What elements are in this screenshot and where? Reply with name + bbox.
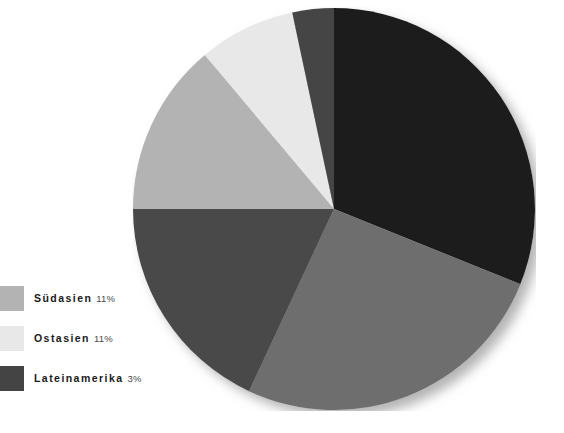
legend-color-swatch: [0, 286, 24, 311]
legend-text: Ostasien11%: [34, 329, 113, 345]
chart-legend: Südasien11%Ostasien11%Lateinamerika3%: [0, 282, 185, 402]
legend-value: 3%: [127, 373, 141, 384]
legend-text: Lateinamerika3%: [34, 369, 142, 385]
legend-label: Südasien: [34, 292, 92, 304]
legend-item[interactable]: Ostasien11%: [0, 322, 185, 362]
legend-text: Südasien11%: [34, 289, 115, 305]
pie-slice-group: [133, 8, 535, 410]
legend-value: 11%: [94, 333, 113, 344]
legend-item[interactable]: Südasien11%: [0, 282, 185, 322]
legend-label: Ostasien: [34, 332, 90, 344]
legend-value: 11%: [96, 293, 115, 304]
pie-chart-graphic: [132, 7, 536, 411]
legend-color-swatch: [0, 366, 24, 391]
legend-item[interactable]: Lateinamerika3%: [0, 362, 185, 402]
pie-svg: [132, 7, 536, 411]
legend-color-swatch: [0, 326, 24, 351]
legend-label: Lateinamerika: [34, 372, 123, 384]
pie-chart-figure: Südasien11%Ostasien11%Lateinamerika3%: [0, 0, 564, 433]
